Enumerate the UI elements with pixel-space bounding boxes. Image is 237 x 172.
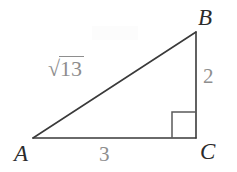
side-label-vertical: 2 bbox=[203, 66, 214, 87]
side-label-hypotenuse: √13 bbox=[48, 54, 84, 80]
right-angle-marker-icon bbox=[172, 112, 196, 138]
triangle-figure: A B C √13 2 3 bbox=[0, 0, 237, 172]
side-label-horizontal: 3 bbox=[99, 144, 110, 165]
vertex-label-a: A bbox=[14, 142, 28, 165]
radicand-value: 13 bbox=[59, 56, 84, 80]
vertex-label-b: B bbox=[198, 6, 212, 29]
vertex-label-c: C bbox=[200, 140, 215, 163]
